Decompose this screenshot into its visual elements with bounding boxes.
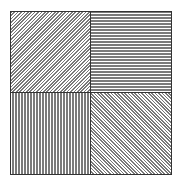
line-pattern-artwork [10,11,172,175]
quadrant-bottom-left-vertical-lines [11,93,91,174]
quadrant-top-left-diagonal-lines [11,12,91,93]
quadrant-bottom-right-diagonal-lines [91,93,171,174]
quadrant-top-right-horizontal-lines [91,12,171,93]
